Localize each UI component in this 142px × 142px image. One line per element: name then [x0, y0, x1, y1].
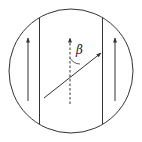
angle-beta-label: β: [75, 43, 83, 57]
diagram: β: [0, 0, 142, 142]
angle-arc: [70, 58, 80, 64]
slanted-arrow: [44, 53, 101, 98]
